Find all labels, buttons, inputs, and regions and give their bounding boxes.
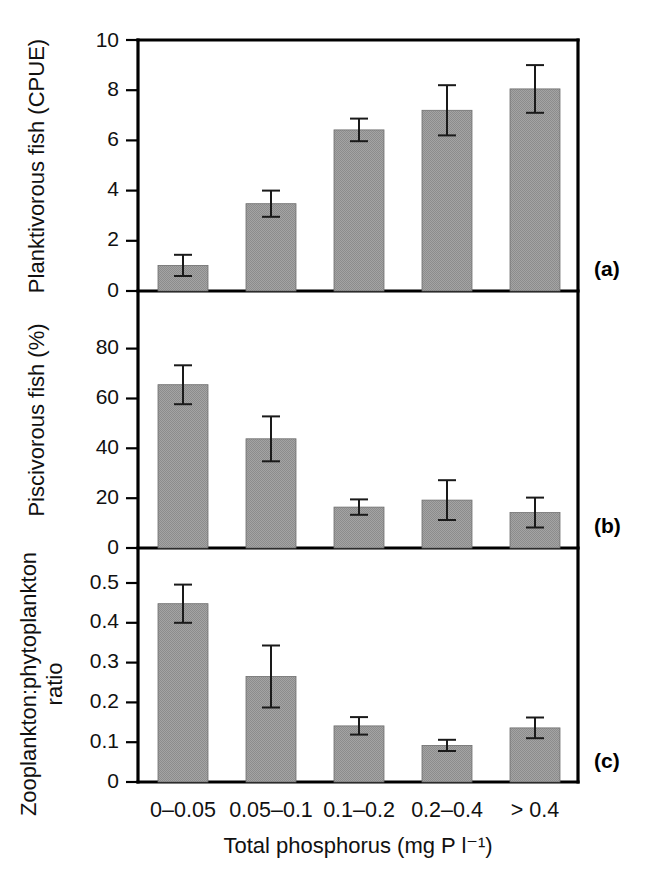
panel-a-ytick-label-10: 10 xyxy=(96,28,119,51)
panel-b-ytick-label-80: 80 xyxy=(96,335,119,358)
panel-c-ytick-label-0.1: 0.1 xyxy=(90,729,119,752)
xtick-label-4: > 0.4 xyxy=(511,798,559,822)
panel-c-y-axis-title-line1: Zooplankton:phytoplankton xyxy=(16,552,41,816)
panel-b-ytick-label-20: 20 xyxy=(96,485,119,508)
panel-b-ytick-label-60: 60 xyxy=(96,385,119,408)
panel-b-ytick-label-40: 40 xyxy=(96,435,119,458)
panel-c-ytick-label-0: 0 xyxy=(107,769,119,792)
xtick-label-3: 0.2–0.4 xyxy=(411,798,483,822)
panel-label-a: (a) xyxy=(594,257,620,280)
panel-label-c: (c) xyxy=(594,749,620,772)
figure-container: 0 2 4 6 8 10 xyxy=(0,0,654,886)
panel-a-ytick-label-4: 4 xyxy=(107,177,119,200)
panel-a-y-axis-title: Planktivorous fish (CPUE) xyxy=(24,39,49,293)
xtick-label-0: 0–0.05 xyxy=(150,798,216,822)
panel-c-ytick-label-0.2: 0.2 xyxy=(90,689,119,712)
x-axis-title: Total phosphorus (mg P l⁻¹) xyxy=(223,833,492,858)
panel-a-bar-4 xyxy=(510,89,560,291)
panel-c-bar-0 xyxy=(158,604,208,782)
panel-c-ytick-label-0.3: 0.3 xyxy=(90,649,119,672)
panel-a-ytick-label-0: 0 xyxy=(107,278,119,301)
panel-c-ytick-label-0.5: 0.5 xyxy=(90,570,119,593)
panel-a-ytick-label-8: 8 xyxy=(107,77,119,100)
panel-b-ytick-label-0: 0 xyxy=(107,535,119,558)
panel-c-y-axis-title-line2: ratio xyxy=(42,663,67,706)
panel-a-bar-2 xyxy=(334,130,384,291)
panel-b-bar-0 xyxy=(158,385,208,548)
panel-a-ytick-label-2: 2 xyxy=(107,227,119,250)
panel-label-b: (b) xyxy=(594,514,621,537)
xtick-label-1: 0.05–0.1 xyxy=(229,798,313,822)
multi-panel-bar-chart: 0 2 4 6 8 10 xyxy=(0,0,654,886)
panel-a-bar-3 xyxy=(422,110,472,291)
panel-a-ytick-label-6: 6 xyxy=(107,127,119,150)
panel-c-ytick-label-0.4: 0.4 xyxy=(90,609,120,632)
xtick-label-2: 0.1–0.2 xyxy=(323,798,395,822)
panel-b-y-axis-title: Piscivorous fish (%) xyxy=(24,323,49,516)
